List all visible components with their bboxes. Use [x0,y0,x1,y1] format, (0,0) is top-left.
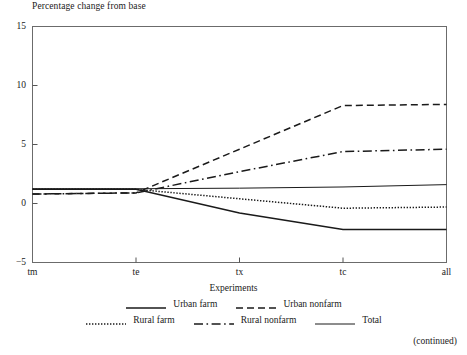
continued-note: (continued) [413,336,457,346]
legend-line-swatch [125,299,167,309]
x-axis-ticks [136,258,343,263]
series-lines [33,104,447,229]
legend-label: Urban nonfarm [283,299,341,309]
y-tick-label: 15 [4,21,26,31]
legend-entry: Rural nonfarm [193,315,297,325]
y-tick-label: 0 [4,198,26,208]
chart-figure: Percentage change from base −5051015 tmt… [0,0,467,355]
legend-line-swatch [314,315,356,325]
series-line [33,189,447,208]
x-tick-label: all [427,267,467,277]
series-line [33,149,447,194]
legend-label: Urban farm [173,299,217,309]
legend-label: Rural farm [133,315,174,325]
legend-entry: Urban nonfarm [235,299,341,309]
legend-entry: Rural farm [85,315,174,325]
legend-line-swatch [85,315,127,325]
legend-swatch-dashdot [193,319,235,329]
legend-line-swatch [193,315,235,325]
legend-row: Urban farmUrban nonfarm [0,296,467,312]
y-tick-label: 5 [4,139,26,149]
legend-swatch-dotted [85,319,127,329]
legend-entry: Total [314,315,381,325]
x-tick-label: tm [13,267,53,277]
x-tick-label: te [116,267,156,277]
chart-legend: Urban farmUrban nonfarm Rural farmRural … [0,296,467,328]
legend-entry: Urban farm [125,299,217,309]
plot-frame [33,27,447,263]
legend-row: Rural farmRural nonfarmTotal [0,312,467,328]
legend-label: Total [362,315,381,325]
x-tick-label: tc [323,267,363,277]
series-line [33,104,447,194]
legend-swatch-solid-thick [125,303,167,313]
y-axis-ticks [33,86,38,204]
series-line [33,185,447,189]
series-line [33,189,447,229]
y-tick-label: 10 [4,80,26,90]
x-tick-label: tx [220,267,260,277]
y-tick-label: −5 [4,257,26,267]
legend-swatch-dashed [235,303,277,313]
legend-line-swatch [235,299,277,309]
legend-swatch-solid-thin [314,319,356,329]
legend-label: Rural nonfarm [241,315,297,325]
x-axis-label: Experiments [0,283,467,293]
